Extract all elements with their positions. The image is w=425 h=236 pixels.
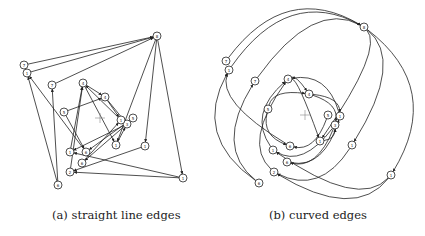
node-label: 4 [104, 95, 107, 100]
graph-edge [262, 82, 285, 147]
graph-node: 1 [66, 148, 74, 156]
graph-edge [266, 113, 286, 145]
graph-edge [367, 29, 413, 171]
graph-edge [292, 79, 319, 137]
node-label: 1 [26, 71, 29, 76]
node-label: 6 [258, 181, 261, 186]
graph-edge [354, 30, 383, 142]
node-label: 1 [182, 176, 185, 181]
node-label: 4 [287, 77, 290, 82]
graph-edge [257, 19, 360, 78]
node-label: 2 [69, 170, 72, 175]
node-label: 6 [81, 161, 84, 166]
graph-node: 1 [23, 69, 31, 77]
graph-node: 6 [82, 148, 90, 156]
graph-node: 5 [60, 108, 68, 116]
graph-node: 1 [269, 146, 277, 154]
node-label: 3 [334, 123, 337, 128]
graph-node: 6 [78, 159, 86, 167]
node-label: 5 [132, 116, 135, 121]
graph-node: 1 [141, 142, 149, 150]
graph-edge [85, 123, 119, 160]
graph-node: 6 [286, 142, 294, 150]
node-label: 1 [272, 148, 275, 153]
graph-edge [277, 174, 388, 199]
graph-edge [28, 37, 153, 64]
node-label: 7 [23, 63, 26, 68]
subfigure-curved-edges: 871744551311166216 [215, 9, 414, 199]
graph-edge [145, 40, 156, 142]
node-label: 8 [363, 25, 366, 30]
graph-node: 1 [387, 171, 395, 179]
graph-edge [322, 30, 370, 138]
graph-edge [86, 86, 118, 117]
node-label: 3 [126, 122, 129, 127]
graph-node: 8 [153, 32, 161, 40]
graph-node: 7 [222, 57, 230, 65]
graph-node: 5 [324, 111, 332, 119]
graph-node: 5 [264, 105, 272, 113]
node-label: 6 [85, 150, 88, 155]
graph-node: 4 [284, 75, 292, 83]
graph-edge [158, 40, 183, 174]
graph-node: 1 [117, 116, 125, 124]
node-label: 8 [156, 34, 159, 39]
center-cross-icon [300, 110, 310, 120]
graph-edge [231, 12, 360, 67]
graph-node: 7 [251, 77, 259, 85]
graph-figure: 871744553111166216 871744551311166216 [0, 0, 425, 236]
edge-layer [28, 37, 182, 181]
caption-b: (b) curved edges [269, 208, 367, 222]
node-label: 7 [254, 79, 257, 84]
graph-edge [85, 87, 114, 142]
graph-node: 5 [129, 114, 137, 122]
subfigure-straight-edges: 871744553111166216 [20, 32, 187, 189]
graph-node: 4 [79, 79, 87, 87]
node-label: 1 [69, 150, 72, 155]
node-label: 7 [225, 59, 228, 64]
node-label: 4 [82, 81, 85, 86]
node-label: 5 [327, 113, 330, 118]
graph-node: 1 [179, 174, 187, 182]
node-label: 6 [57, 183, 60, 188]
node-label: 1 [351, 143, 354, 148]
graph-node: 3 [331, 121, 339, 129]
node-label: 5 [267, 107, 270, 112]
graph-node: 2 [66, 168, 74, 176]
node-label: 1 [339, 114, 342, 119]
node-label: 1 [228, 68, 231, 73]
graph-node: 6 [283, 158, 291, 166]
graph-edge [234, 84, 256, 180]
graph-node: 1 [112, 141, 120, 149]
graph-edge [276, 152, 388, 189]
graph-node: 8 [360, 23, 368, 31]
graph-node: 1 [336, 112, 344, 120]
graph-node: 6 [255, 179, 263, 187]
node-label: 4 [308, 92, 311, 97]
graph-node: 7 [20, 61, 28, 69]
node-layer: 871744551311166216 [222, 23, 395, 187]
node-label: 1 [144, 144, 147, 149]
node-label: 1 [120, 118, 123, 123]
edge-layer [215, 9, 414, 199]
graph-node: 2 [270, 168, 278, 176]
graph-node: 1 [348, 141, 356, 149]
graph-node: 1 [225, 66, 233, 74]
node-label: 1 [115, 143, 118, 148]
caption-a: (a) straight line edges [52, 208, 181, 222]
graph-node: 4 [101, 93, 109, 101]
node-label: 1 [390, 173, 393, 178]
graph-edge [68, 98, 101, 110]
graph-node: 1 [316, 137, 324, 145]
node-label: 7 [51, 83, 54, 88]
node-label: 6 [286, 160, 289, 165]
graph-edge [66, 116, 84, 149]
graph-node: 4 [305, 90, 313, 98]
node-label: 2 [273, 170, 276, 175]
node-layer: 871744553111166216 [20, 32, 187, 189]
node-label: 1 [319, 139, 322, 144]
node-label: 5 [63, 110, 66, 115]
graph-node: 6 [54, 181, 62, 189]
graph-node: 7 [48, 81, 56, 89]
node-label: 6 [289, 144, 292, 149]
